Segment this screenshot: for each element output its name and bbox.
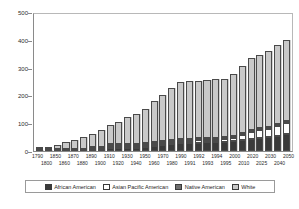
y-axis-tick-mark: [28, 41, 32, 42]
bar-segment: [107, 125, 114, 144]
x-axis-tick-label: 1870: [68, 154, 79, 159]
bar-segment: [239, 66, 246, 133]
x-axis-tick-label: 1930: [122, 154, 133, 159]
bar-1860: [62, 142, 69, 151]
bar-2020: [248, 58, 255, 151]
x-axis-tick-label: 1994: [211, 154, 222, 159]
y-axis: 0100200300400500: [0, 0, 31, 165]
bar-1900: [98, 130, 105, 151]
bar-1990: [177, 82, 184, 151]
x-axis-tick-label: 2050: [283, 154, 294, 159]
x-axis-tick-label: 2030: [265, 154, 276, 159]
bar-segment: [98, 149, 105, 151]
bar-segment: [186, 143, 193, 151]
y-axis-tick-label: 500: [18, 10, 28, 16]
bar-segment: [265, 129, 272, 137]
bar-segment: [107, 148, 114, 151]
x-axis-tick-label: 1990: [175, 154, 186, 159]
bar-1980: [168, 88, 175, 151]
x-axis-tick-label: 2020: [247, 154, 258, 159]
bar-segment: [71, 140, 78, 149]
bar-1930: [124, 117, 131, 151]
bar-segment: [274, 45, 281, 124]
bar-1991: [186, 81, 193, 151]
x-axis-tick-label: 1910: [104, 154, 115, 159]
bar-segment: [36, 149, 43, 151]
y-axis-tick-label: 300: [18, 66, 28, 72]
x-axis-tick-label: 1991: [184, 161, 195, 166]
y-axis-tick-mark: [28, 13, 32, 14]
bar-segment: [168, 144, 175, 151]
bar-2030: [265, 51, 272, 151]
x-axis-tick-label: 1850: [50, 154, 61, 159]
bar-segment: [177, 82, 184, 139]
legend-item: African American: [45, 184, 96, 190]
bar-segment: [212, 79, 219, 137]
bar-1993: [203, 80, 210, 151]
bar-segment: [62, 149, 69, 151]
legend-label: Native American: [185, 184, 225, 190]
x-axis-tick-label: 2010: [238, 161, 249, 166]
x-axis-tick-label: 1960: [148, 161, 159, 166]
x-axis-tick-label: 1995: [220, 161, 231, 166]
bar-segment: [54, 149, 61, 151]
bar-1890: [89, 134, 96, 152]
bar-group: [34, 14, 292, 151]
bar-segment: [265, 137, 272, 151]
x-axis-tick-label: 1993: [202, 161, 213, 166]
bar-segment: [248, 139, 255, 151]
legend-item: Asian Pacific American: [103, 184, 168, 190]
y-axis-tick-label: 400: [18, 38, 28, 44]
y-axis-tick-mark: [28, 96, 32, 97]
legend-swatch-icon: [232, 184, 239, 190]
bar-1992: [195, 81, 202, 151]
legend-swatch-icon: [103, 184, 110, 190]
bar-segment: [248, 132, 255, 139]
legend-item: Native American: [175, 184, 225, 190]
bar-segment: [80, 137, 87, 149]
bar-segment: [283, 134, 290, 151]
x-axis-tick-label: 1890: [86, 154, 97, 159]
bar-segment: [274, 126, 281, 136]
bar-1800: [45, 150, 52, 151]
bar-1910: [107, 125, 114, 151]
bar-segment: [256, 130, 263, 137]
bar-segment: [274, 136, 281, 151]
y-axis-tick-label: 100: [18, 121, 28, 127]
bar-segment: [265, 51, 272, 127]
bar-segment: [98, 130, 105, 147]
bar-segment: [212, 142, 219, 151]
bar-1870: [71, 140, 78, 151]
x-axis-tick-label: 1970: [157, 154, 168, 159]
legend-label: African American: [54, 184, 96, 190]
bar-1880: [80, 137, 87, 151]
x-axis-tick-label: 1950: [140, 154, 151, 159]
bar-1920: [115, 122, 122, 151]
y-axis-tick-mark: [28, 124, 32, 125]
bar-segment: [195, 143, 202, 151]
bar-1790: [36, 150, 43, 151]
bar-segment: [203, 142, 210, 151]
bar-2040: [274, 45, 281, 151]
bar-segment: [159, 95, 166, 141]
bar-segment: [203, 80, 210, 138]
bar-segment: [133, 114, 140, 143]
legend-swatch-icon: [175, 184, 182, 190]
bar-segment: [151, 146, 158, 151]
bar-segment: [221, 79, 228, 138]
bar-1960: [151, 101, 158, 151]
x-axis-tick-label: 1940: [131, 161, 142, 166]
plot-area: [33, 13, 293, 152]
bar-segment: [177, 143, 184, 151]
bar-2000: [230, 74, 237, 151]
bar-1950: [142, 109, 149, 151]
bar-segment: [124, 148, 131, 151]
bar-segment: [283, 123, 290, 134]
chart-legend: African AmericanAsian Pacific AmericanNa…: [25, 180, 275, 193]
bar-segment: [159, 145, 166, 151]
bar-segment: [71, 149, 78, 151]
bar-segment: [195, 81, 202, 139]
bar-1995: [221, 79, 228, 151]
x-axis-tick-label: 2000: [229, 154, 240, 159]
bar-segment: [62, 142, 69, 149]
